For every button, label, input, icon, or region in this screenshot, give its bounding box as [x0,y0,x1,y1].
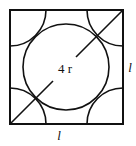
diagonal-upper [76,10,123,57]
corner-arc-top-left [0,0,46,46]
diagonal-label: 4 r [58,61,73,76]
corner-arc-bottom-right [87,88,136,146]
diagonal-lower [10,81,53,124]
bottom-side-label: l [57,128,61,143]
right-side-label: l [128,60,132,75]
corner-arc-bottom-left [0,88,46,146]
unit-cell-diagram: 4 r l l [0,0,136,146]
